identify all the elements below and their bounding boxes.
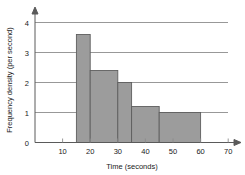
y-tick-label-0: 0 [25, 139, 29, 148]
x-tick-label-20: 20 [86, 147, 94, 156]
x-tick-label-50: 50 [169, 147, 177, 156]
y-axis-title: Frequency density (per second) [5, 27, 14, 133]
histogram-chart: 0 1 2 3 4 10 20 30 40 50 60 70 Time (sec… [0, 0, 245, 175]
y-axis-arrow-icon [32, 7, 38, 14]
bar-15-20 [76, 35, 90, 143]
chart-canvas: 0 1 2 3 4 10 20 30 40 50 60 70 Time (sec… [0, 0, 245, 175]
x-axis-arrow-icon [234, 140, 241, 146]
x-tick-label-40: 40 [141, 147, 149, 156]
y-tick-labels: 0 1 2 3 4 [25, 19, 29, 148]
x-tick-labels: 10 20 30 40 50 60 70 [58, 147, 232, 156]
bar-45-60 [159, 113, 200, 143]
x-tick-label-10: 10 [58, 147, 66, 156]
y-tick-label-4: 4 [25, 19, 29, 28]
x-tick-label-60: 60 [196, 147, 204, 156]
x-tick-label-70: 70 [224, 147, 232, 156]
bar-30-35 [118, 83, 132, 143]
y-tick-label-2: 2 [25, 79, 29, 88]
bar-20-30 [90, 71, 118, 143]
x-axis-title: Time (seconds) [106, 162, 158, 171]
y-tick-label-1: 1 [25, 109, 29, 118]
y-tick-label-3: 3 [25, 49, 29, 58]
x-tick-label-30: 30 [114, 147, 122, 156]
bars-group [76, 35, 200, 143]
bar-35-45 [132, 107, 160, 143]
